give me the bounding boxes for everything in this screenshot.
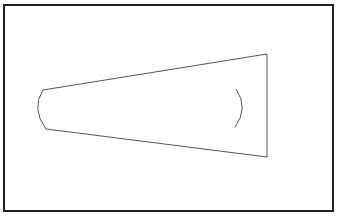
shape-top-edge <box>43 54 267 90</box>
outer-border <box>4 5 333 211</box>
shape-left-arc <box>38 90 46 129</box>
shape-inner-arc <box>235 89 242 127</box>
shape-bottom-edge <box>46 129 267 157</box>
diagram-canvas <box>0 0 337 221</box>
diagram-svg <box>0 0 337 221</box>
